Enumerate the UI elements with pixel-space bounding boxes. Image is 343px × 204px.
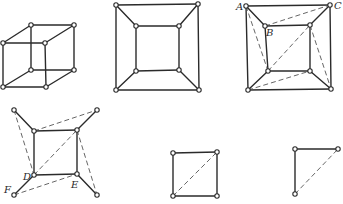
- solid-edge: [3, 25, 31, 43]
- solid-edge: [46, 70, 74, 87]
- solid-edge: [116, 5, 136, 26]
- solid-edge: [77, 110, 97, 130]
- solid-edge: [179, 70, 199, 90]
- solid-edge: [265, 25, 310, 26]
- vertex: [134, 69, 138, 73]
- vertex-label-f: F: [3, 184, 12, 195]
- vertex-label-a: A: [235, 1, 243, 12]
- vertex: [75, 172, 79, 176]
- figure-cube: [1, 23, 76, 89]
- dashed-edge: [268, 25, 310, 71]
- solid-edge: [116, 4, 198, 5]
- vertex: [32, 129, 36, 133]
- diagram-canvas: ACBDEF: [0, 0, 343, 204]
- vertex: [308, 69, 312, 73]
- vertex: [196, 2, 200, 6]
- solid-edge: [3, 70, 31, 87]
- vertex: [95, 193, 99, 197]
- vertex: [308, 23, 312, 27]
- vertex: [114, 88, 118, 92]
- figure-square-with-diagonal: [171, 150, 219, 198]
- figure-triangle: [293, 147, 340, 196]
- solid-edge: [45, 43, 46, 87]
- vertex: [32, 173, 36, 177]
- vertex: [266, 69, 270, 73]
- vertex: [171, 194, 175, 198]
- vertex: [293, 192, 297, 196]
- solid-edge: [248, 89, 331, 90]
- solid-edge: [136, 70, 179, 71]
- vertex: [29, 68, 33, 72]
- solid-edge: [330, 5, 331, 89]
- vertex: [1, 41, 5, 45]
- vertex: [215, 194, 219, 198]
- vertex: [134, 24, 138, 28]
- vertex: [215, 150, 219, 154]
- vertex: [293, 147, 297, 151]
- vertex: [177, 24, 181, 28]
- solid-edge: [198, 4, 199, 90]
- vertex: [246, 88, 250, 92]
- vertex: [171, 151, 175, 155]
- solid-edge: [34, 174, 77, 175]
- vertex-label-b: B: [265, 27, 273, 38]
- solid-edge: [116, 71, 136, 90]
- vertex: [328, 3, 332, 7]
- vertex: [177, 68, 181, 72]
- vertex-label-c: C: [334, 0, 342, 11]
- dashed-edge: [34, 110, 97, 131]
- vertex: [1, 85, 5, 89]
- vertex: [197, 88, 201, 92]
- vertex: [95, 108, 99, 112]
- figure-planar-cube-triangulated: ACB: [235, 0, 342, 92]
- vertex: [329, 87, 333, 91]
- vertex-label-e: E: [70, 179, 79, 190]
- solid-edge: [34, 130, 77, 131]
- solid-edge: [179, 4, 198, 26]
- vertex: [72, 23, 76, 27]
- dashed-edge: [173, 152, 217, 196]
- figure-outer-removed: DEF: [3, 108, 99, 197]
- solid-edge: [45, 25, 74, 43]
- solid-edge: [246, 6, 265, 26]
- dashed-edge: [246, 6, 268, 71]
- vertex: [75, 128, 79, 132]
- vertex: [12, 108, 16, 112]
- solid-edge: [246, 5, 330, 6]
- solid-edge: [246, 6, 248, 90]
- vertex: [72, 68, 76, 72]
- vertex: [336, 147, 340, 151]
- dashed-edge: [34, 130, 77, 175]
- dashed-edge: [295, 149, 338, 194]
- figure-planar-cube: [114, 2, 201, 92]
- vertex: [29, 23, 33, 27]
- graph-diagram: ACBDEF: [0, 0, 343, 204]
- solid-edge: [173, 152, 217, 153]
- vertex: [43, 41, 47, 45]
- vertex: [244, 4, 248, 8]
- vertex: [12, 193, 16, 197]
- vertex: [44, 85, 48, 89]
- vertex-label-d: D: [22, 171, 31, 182]
- vertex: [114, 3, 118, 7]
